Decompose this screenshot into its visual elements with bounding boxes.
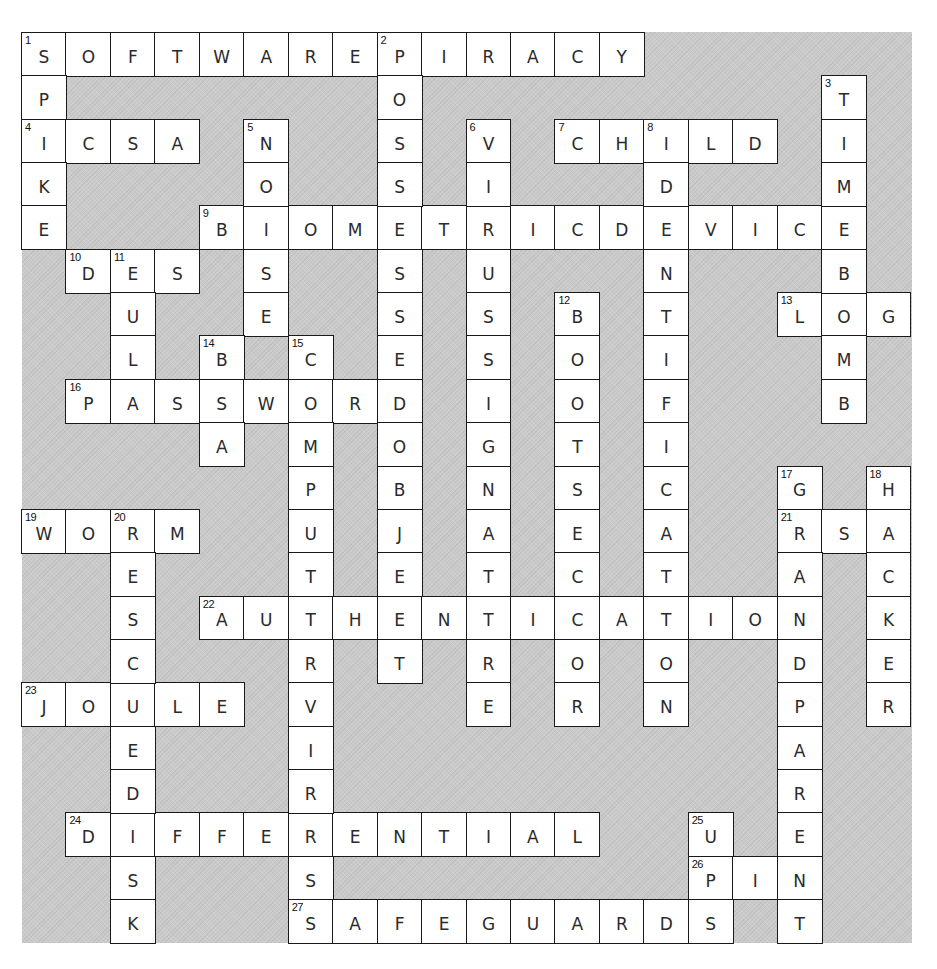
crossword-cell-r20-c10[interactable]: G (466, 899, 512, 944)
crossword-cell-r3-c0[interactable]: K (21, 162, 67, 207)
crossword-cell-r10-c8[interactable]: B (377, 466, 423, 511)
crossword-cell-r12-c2[interactable]: E (110, 552, 156, 597)
crossword-cell-r11-c8[interactable]: J (377, 509, 423, 554)
crossword-cell-r5-c10[interactable]: U (466, 249, 512, 294)
crossword-cell-r2-c3[interactable]: A (154, 119, 200, 164)
crossword-cell-r0-c2[interactable]: F (110, 32, 156, 77)
crossword-cell-r10-c14[interactable]: C (643, 466, 689, 511)
crossword-cell-r9-c12[interactable]: T (554, 422, 600, 467)
crossword-cell-r18-c12[interactable]: L (554, 812, 600, 857)
crossword-cell-r5-c3[interactable]: S (154, 249, 200, 294)
crossword-cell-r4-c6[interactable]: O (288, 205, 334, 250)
crossword-cell-r11-c0[interactable]: 19W (21, 509, 67, 554)
crossword-cell-r20-c13[interactable]: R (599, 899, 645, 944)
crossword-cell-r10-c10[interactable]: N (466, 466, 512, 511)
crossword-cell-r13-c7[interactable]: H (332, 596, 378, 641)
crossword-cell-r8-c18[interactable]: B (821, 379, 867, 424)
crossword-cell-r8-c5[interactable]: W (243, 379, 289, 424)
crossword-cell-r8-c1[interactable]: 16P (65, 379, 111, 424)
crossword-cell-r18-c7[interactable]: E (332, 812, 378, 857)
crossword-cell-r7-c10[interactable]: S (466, 335, 512, 380)
crossword-cell-r15-c1[interactable]: O (65, 682, 111, 727)
crossword-cell-r0-c8[interactable]: 2P (377, 32, 423, 77)
crossword-cell-r4-c12[interactable]: C (554, 205, 600, 250)
crossword-cell-r11-c19[interactable]: A (866, 509, 912, 554)
crossword-cell-r4-c0[interactable]: E (21, 205, 67, 250)
crossword-cell-r14-c6[interactable]: R (288, 639, 334, 684)
crossword-cell-r19-c17[interactable]: N (777, 856, 823, 901)
crossword-cell-r1-c0[interactable]: P (21, 75, 67, 120)
crossword-cell-r2-c2[interactable]: S (110, 119, 156, 164)
crossword-cell-r8-c14[interactable]: F (643, 379, 689, 424)
crossword-cell-r7-c14[interactable]: I (643, 335, 689, 380)
crossword-cell-r2-c13[interactable]: H (599, 119, 645, 164)
crossword-cell-r14-c17[interactable]: D (777, 639, 823, 684)
crossword-cell-r13-c14[interactable]: T (643, 596, 689, 641)
crossword-cell-r11-c17[interactable]: 21R (777, 509, 823, 554)
crossword-cell-r13-c2[interactable]: S (110, 596, 156, 641)
crossword-cell-r20-c11[interactable]: U (510, 899, 556, 944)
crossword-cell-r14-c14[interactable]: O (643, 639, 689, 684)
crossword-cell-r6-c19[interactable]: G (866, 292, 912, 337)
crossword-cell-r4-c14[interactable]: E (643, 205, 689, 250)
crossword-cell-r16-c6[interactable]: I (288, 726, 334, 771)
crossword-cell-r4-c8[interactable]: E (377, 205, 423, 250)
crossword-cell-r19-c15[interactable]: 26P (688, 856, 734, 901)
crossword-cell-r13-c4[interactable]: 22A (199, 596, 245, 641)
crossword-cell-r9-c4[interactable]: A (199, 422, 245, 467)
crossword-cell-r16-c2[interactable]: E (110, 726, 156, 771)
crossword-cell-r5-c1[interactable]: 10D (65, 249, 111, 294)
crossword-cell-r16-c17[interactable]: A (777, 726, 823, 771)
crossword-cell-r12-c10[interactable]: T (466, 552, 512, 597)
crossword-cell-r13-c16[interactable]: O (732, 596, 778, 641)
crossword-cell-r15-c4[interactable]: E (199, 682, 245, 727)
crossword-cell-r7-c18[interactable]: M (821, 335, 867, 380)
crossword-cell-r14-c2[interactable]: C (110, 639, 156, 684)
crossword-cell-r7-c4[interactable]: 14B (199, 335, 245, 380)
crossword-cell-r6-c5[interactable]: E (243, 292, 289, 337)
crossword-cell-r2-c8[interactable]: S (377, 119, 423, 164)
crossword-cell-r17-c17[interactable]: R (777, 769, 823, 814)
crossword-cell-r7-c8[interactable]: E (377, 335, 423, 380)
crossword-cell-r8-c10[interactable]: I (466, 379, 512, 424)
crossword-cell-r6-c8[interactable]: S (377, 292, 423, 337)
crossword-cell-r12-c14[interactable]: T (643, 552, 689, 597)
crossword-cell-r1-c18[interactable]: 3T (821, 75, 867, 120)
crossword-cell-r14-c10[interactable]: R (466, 639, 512, 684)
crossword-cell-r2-c5[interactable]: 5N (243, 119, 289, 164)
crossword-cell-r14-c12[interactable]: O (554, 639, 600, 684)
crossword-cell-r15-c0[interactable]: 23J (21, 682, 67, 727)
crossword-cell-r8-c2[interactable]: A (110, 379, 156, 424)
crossword-cell-r13-c6[interactable]: T (288, 596, 334, 641)
crossword-cell-r4-c11[interactable]: I (510, 205, 556, 250)
crossword-cell-r3-c10[interactable]: I (466, 162, 512, 207)
crossword-cell-r13-c12[interactable]: C (554, 596, 600, 641)
crossword-cell-r13-c5[interactable]: U (243, 596, 289, 641)
crossword-cell-r5-c8[interactable]: S (377, 249, 423, 294)
crossword-cell-r20-c14[interactable]: D (643, 899, 689, 944)
crossword-cell-r0-c1[interactable]: O (65, 32, 111, 77)
crossword-cell-r18-c4[interactable]: F (199, 812, 245, 857)
crossword-cell-r9-c6[interactable]: M (288, 422, 334, 467)
crossword-cell-r9-c8[interactable]: O (377, 422, 423, 467)
crossword-cell-r18-c10[interactable]: I (466, 812, 512, 857)
crossword-cell-r14-c8[interactable]: T (377, 639, 423, 684)
crossword-cell-r8-c4[interactable]: S (199, 379, 245, 424)
crossword-cell-r2-c10[interactable]: 6V (466, 119, 512, 164)
crossword-cell-r18-c17[interactable]: E (777, 812, 823, 857)
crossword-cell-r4-c18[interactable]: E (821, 205, 867, 250)
crossword-cell-r12-c6[interactable]: T (288, 552, 334, 597)
crossword-cell-r0-c5[interactable]: A (243, 32, 289, 77)
crossword-cell-r11-c2[interactable]: 20R (110, 509, 156, 554)
crossword-cell-r0-c10[interactable]: R (466, 32, 512, 77)
crossword-cell-r10-c12[interactable]: S (554, 466, 600, 511)
crossword-cell-r8-c3[interactable]: S (154, 379, 200, 424)
crossword-cell-r18-c15[interactable]: 25U (688, 812, 734, 857)
crossword-cell-r20-c12[interactable]: A (554, 899, 600, 944)
crossword-cell-r7-c2[interactable]: L (110, 335, 156, 380)
crossword-cell-r2-c16[interactable]: D (732, 119, 778, 164)
crossword-cell-r0-c13[interactable]: Y (599, 32, 645, 77)
crossword-cell-r0-c9[interactable]: I (421, 32, 467, 77)
crossword-cell-r11-c18[interactable]: S (821, 509, 867, 554)
crossword-cell-r17-c6[interactable]: R (288, 769, 334, 814)
